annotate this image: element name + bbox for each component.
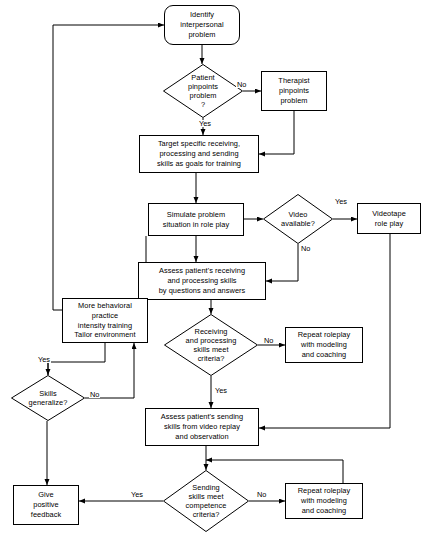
node-more-behavioral-practice: More behavioral practice intensity train…	[62, 298, 148, 343]
edge-label-label-no-generalize: No	[89, 391, 100, 398]
node-identify-problem: Identify interpersonal problem	[164, 5, 240, 45]
node-repeat-roleplay-bottom: Repeat roleplay with modeling and coachi…	[285, 483, 363, 519]
flowchart-canvas: Identify interpersonal problemPatient pi…	[0, 0, 429, 543]
edge-therapist-to-target	[259, 111, 294, 154]
node-target-skills: Target specific receiving, processing an…	[139, 135, 259, 173]
node-repeat-roleplay-middle: Repeat roleplay with modeling and coachi…	[285, 327, 363, 363]
node-video-available-label: Video available?	[263, 210, 333, 229]
node-sending-criteria-label: Sending skills meet competence criteria?	[163, 483, 249, 520]
node-skills-generalize-label: Skills generalize?	[11, 389, 85, 408]
node-video-available: Video available?	[263, 194, 333, 244]
node-receiving-criteria: Receiving and processing skills meet cri…	[164, 314, 258, 376]
edge-label-label-no-sending: No	[256, 491, 267, 498]
node-therapist-pinpoints: Therapist pinpoints problem	[261, 71, 327, 111]
node-skills-generalize: Skills generalize?	[11, 375, 85, 421]
node-assess-sending: Assess patient's sending skills from vid…	[145, 408, 259, 446]
node-simulate-problem: Simulate problem situation in role play	[148, 203, 244, 236]
node-patient-pinpoints-label: Patient pinpoints problem ?	[163, 73, 243, 110]
edge-label-label-yes-video: Yes	[334, 198, 348, 205]
edge-label-label-no-patient: No	[236, 81, 247, 88]
edge-practice-to-generalize	[48, 343, 105, 375]
node-sending-criteria: Sending skills meet competence criteria?	[163, 470, 249, 532]
edge-label-label-yes-receiving: Yes	[214, 387, 228, 394]
edge-label-label-yes-sending: Yes	[130, 491, 144, 498]
node-receiving-criteria-label: Receiving and processing skills meet cri…	[164, 327, 258, 364]
node-assess-receiving: Assess patient's receiving and processin…	[138, 262, 266, 300]
edge-video-no-assess	[266, 244, 298, 281]
node-patient-pinpoints: Patient pinpoints problem ?	[163, 64, 243, 118]
node-give-positive-feedback: Give positive feedback	[13, 485, 79, 525]
edge-label-label-no-receiving: No	[263, 337, 274, 344]
node-videotape-roleplay: Videotape role play	[357, 203, 421, 234]
edge-label-label-yes-generalize: Yes	[37, 356, 51, 363]
edge-label-label-yes-patient: Yes	[198, 120, 212, 127]
edge-label-label-no-video: No	[300, 245, 311, 252]
